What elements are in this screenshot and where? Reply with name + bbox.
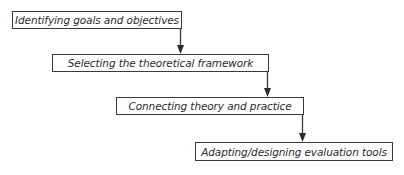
step-identifying-goals: Identifying goals and objectives xyxy=(12,11,182,29)
step-label: Adapting/designing evaluation tools xyxy=(201,146,387,158)
step-label: Identifying goals and objectives xyxy=(15,14,179,26)
step-label: Connecting theory and practice xyxy=(128,100,291,112)
step-label: Selecting the theoretical framework xyxy=(68,57,254,69)
step-selecting-framework: Selecting the theoretical framework xyxy=(52,54,269,72)
arrow-down-icon xyxy=(264,72,271,97)
arrow-down-icon xyxy=(177,29,184,54)
step-designing-evaluation-tools: Adapting/designing evaluation tools xyxy=(195,142,393,161)
arrow-down-icon xyxy=(299,115,306,142)
step-connecting-theory-practice: Connecting theory and practice xyxy=(116,97,304,115)
